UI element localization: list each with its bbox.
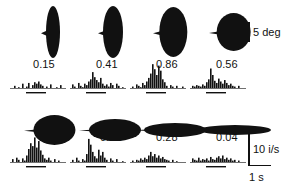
stimulus-shape-r1c3 [151,5,189,59]
time-scalebar-line [248,165,271,167]
stimulus-shape-r1c4 [207,11,253,53]
psth-r1c2 [70,62,126,96]
degree-scalebar-line [248,22,250,42]
psth-r1c1 [10,62,66,96]
rate-scalebar-line [248,133,250,166]
psth-r1c4 [190,62,246,96]
figure-panel: 0.15 0.41 0.86 0.56 1 0.91 0.28 0.04 5 d… [0,0,300,192]
psth-r2c1 [10,136,66,170]
rate-scalebar-label: 10 i/s [253,144,279,155]
stimulus-shape-r1c1 [39,4,62,60]
psth-r1c3 [130,62,186,96]
psth-r2c4 [190,136,246,170]
stimulus-shape-r1c2 [96,4,125,60]
time-scalebar-label: 1 s [249,172,264,183]
degree-scalebar-label: 5 deg [253,27,281,38]
psth-r2c2 [70,136,126,170]
psth-r2c3 [130,136,186,170]
